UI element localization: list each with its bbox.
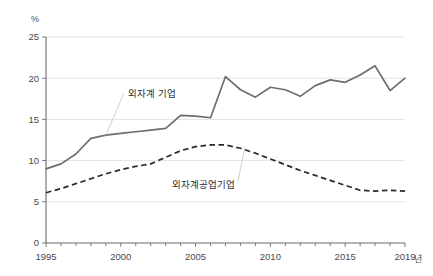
series-annotations: 외자계 기업 외자계공업기업 (106, 88, 245, 190)
y-axis-tick-label: 15 (28, 114, 39, 125)
x-axis-tick-label: 2010 (260, 251, 281, 262)
series-label-foreign-firms: 외자계 기업 (128, 88, 176, 99)
x-axis-tick-label: 2019 (394, 251, 415, 262)
y-axis-tick-label: 0 (34, 237, 39, 248)
chart-container: 0510152025 199520002005201020152019 % 년 … (0, 0, 433, 276)
data-series (46, 66, 405, 193)
x-axis-tick-marks (46, 243, 405, 247)
x-axis-tick-label: 2005 (185, 251, 206, 262)
x-axis-tick-label: 2015 (335, 251, 356, 262)
y-axis-tick-label: 10 (28, 155, 39, 166)
y-axis-tick-label: 25 (28, 31, 39, 42)
gridlines (46, 37, 405, 202)
leader-line-solid-series (106, 93, 124, 135)
series-line-1 (46, 66, 405, 169)
y-axis-tick-label: 5 (34, 196, 39, 207)
line-chart: 0510152025 199520002005201020152019 % 년 … (0, 0, 433, 276)
x-axis-unit-label: 년 (414, 254, 422, 264)
x-axis-tick-label: 2000 (110, 251, 131, 262)
y-axis-unit-label: % (31, 14, 39, 24)
leader-line-dashed-series (238, 147, 245, 181)
axes (46, 37, 405, 243)
series-label-foreign-industrial-firms: 외자계공업기업 (172, 179, 235, 190)
x-axis-tick-label: 1995 (35, 251, 56, 262)
y-axis-tick-marks (42, 37, 46, 243)
x-axis-tick-labels: 199520002005201020152019 (35, 251, 415, 262)
y-axis-tick-labels: 0510152025 (28, 31, 39, 248)
y-axis-tick-label: 20 (28, 73, 39, 84)
